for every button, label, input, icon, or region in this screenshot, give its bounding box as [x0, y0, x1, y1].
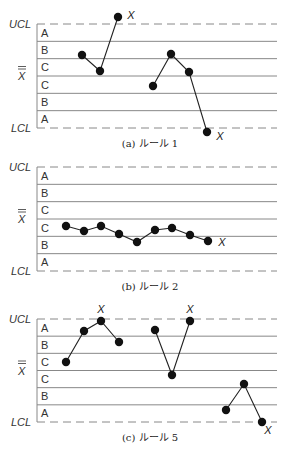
data-point: [203, 128, 211, 136]
control-chart-a: ABCCBAUCLLCLXXX(a) ルール 1: [9, 9, 277, 149]
data-point: [168, 224, 176, 232]
out-of-control-mark: X: [126, 9, 135, 21]
zone-label-b: B: [41, 187, 48, 199]
data-point: [240, 380, 248, 388]
data-point: [62, 358, 70, 366]
zone-label-a: A: [41, 407, 49, 419]
zone-label-a: A: [41, 113, 49, 125]
x-double-bar-label: X: [17, 213, 26, 225]
zone-label-a: A: [41, 256, 49, 268]
connector-line: [82, 17, 118, 71]
zone-label-b: B: [41, 96, 48, 108]
data-point: [133, 238, 141, 246]
zone-label-c: C: [41, 222, 49, 234]
lcl-label: LCL: [11, 416, 31, 428]
data-point: [115, 338, 123, 346]
zone-label-c: C: [41, 373, 49, 385]
out-of-control-mark: X: [217, 236, 226, 248]
data-point: [80, 227, 88, 235]
data-point: [185, 68, 193, 76]
zone-label-c: C: [41, 79, 49, 91]
data-point: [78, 51, 86, 59]
data-point: [96, 67, 104, 75]
data-point: [222, 406, 230, 414]
data-point: [168, 371, 176, 379]
data-point: [151, 326, 159, 334]
out-of-control-mark: X: [185, 303, 194, 315]
data-point: [115, 230, 123, 238]
data-point: [151, 226, 159, 234]
out-of-control-mark: X: [96, 303, 105, 315]
data-point: [97, 317, 105, 325]
data-point: [97, 222, 105, 230]
out-of-control-mark: X: [215, 130, 224, 142]
connector-line: [226, 384, 262, 422]
data-point: [186, 231, 194, 239]
zone-label-a: A: [41, 322, 49, 334]
chart-caption: (a) ルール 1: [122, 138, 178, 149]
ucl-label: UCL: [9, 313, 31, 325]
data-point: [114, 13, 122, 21]
x-double-bar-label: X: [17, 365, 26, 377]
zone-label-a: A: [41, 27, 49, 39]
data-point: [204, 237, 212, 245]
chart-caption: (b) ルール 2: [122, 281, 179, 292]
zone-label-b: B: [41, 390, 48, 402]
zone-label-c: C: [41, 204, 49, 216]
lcl-label: LCL: [11, 265, 31, 277]
x-double-bar-label: X: [17, 70, 26, 82]
data-point: [149, 82, 157, 90]
data-point: [62, 222, 70, 230]
data-point: [80, 327, 88, 335]
zone-label-b: B: [41, 44, 48, 56]
connector-line: [155, 321, 190, 375]
control-chart-b: ABCCBAUCLLCLXX(b) ルール 2: [9, 161, 277, 292]
zone-label-c: C: [41, 61, 49, 73]
chart-caption: (c) ルール 5: [122, 432, 178, 443]
zone-label-b: B: [41, 239, 48, 251]
data-point: [186, 317, 194, 325]
ucl-label: UCL: [9, 161, 31, 173]
out-of-control-mark: X: [263, 424, 272, 436]
lcl-label: LCL: [11, 122, 31, 134]
control-chart-rules-figure: ABCCBAUCLLCLXXX(a) ルール 1ABCCBAUCLLCLXX(b…: [0, 0, 284, 456]
zone-label-a: A: [41, 170, 49, 182]
data-point: [167, 50, 175, 58]
ucl-label: UCL: [9, 18, 31, 30]
zone-label-c: C: [41, 356, 49, 368]
zone-label-b: B: [41, 339, 48, 351]
control-chart-c: ABCCBAUCLLCLXXXX(c) ルール 5: [9, 303, 277, 443]
connector-line: [66, 321, 119, 362]
